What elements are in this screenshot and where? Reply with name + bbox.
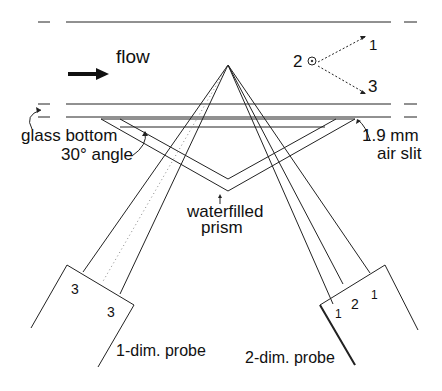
probe2-label: 2-dim. probe <box>245 350 335 366</box>
flow-label: flow <box>116 47 150 66</box>
air-slit-size-label: 1.9 mm <box>362 127 419 144</box>
probe1-number-b: 3 <box>107 305 115 319</box>
arrow-to-1 <box>318 37 365 62</box>
prism-label-line2: prism <box>201 219 243 236</box>
flow-arrow-shaft <box>68 72 98 76</box>
beam-1dim-left <box>83 65 228 272</box>
beam-2dim-3 <box>228 65 370 273</box>
glass-bottom-label: glass bottom <box>21 127 117 144</box>
probe2-number-c: 1 <box>371 289 378 301</box>
beam-2dim-1 <box>228 65 333 304</box>
angle-label: 30° angle <box>61 146 133 163</box>
probe2-number-b: 2 <box>351 297 359 311</box>
beam-1dim-right <box>120 65 228 294</box>
prism-inner <box>120 119 336 179</box>
arrow-to-3 <box>318 66 365 93</box>
probe1-label: 1-dim. probe <box>116 343 206 359</box>
probe1-number-a: 3 <box>71 282 79 296</box>
component-2-label: 2 <box>293 53 302 70</box>
component-1-label: 1 <box>369 37 377 52</box>
air-slit-label: air slit <box>377 145 421 162</box>
component-3-label: 3 <box>368 78 377 95</box>
diagram-canvas <box>0 0 442 391</box>
flow-arrow-icon <box>96 68 109 80</box>
probe2-number-a: 1 <box>335 308 342 320</box>
beam-2dim-2 <box>228 65 343 284</box>
